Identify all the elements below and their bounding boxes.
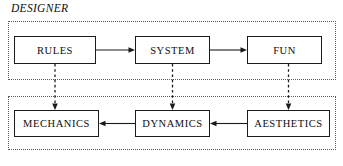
node-rules-label: RULES xyxy=(37,45,73,56)
node-system: SYSTEM xyxy=(135,36,210,64)
node-aesthetics: AESTHETICS xyxy=(247,110,330,137)
diagram-canvas: DESIGNER xyxy=(0,0,343,166)
node-fun: FUN xyxy=(247,36,322,64)
node-aesthetics-label: AESTHETICS xyxy=(254,118,323,129)
node-system-label: SYSTEM xyxy=(150,45,195,56)
designer-perspective-label: DESIGNER xyxy=(11,2,68,15)
node-fun-label: FUN xyxy=(273,45,296,56)
node-mechanics-label: MECHANICS xyxy=(23,118,90,129)
node-mechanics: MECHANICS xyxy=(14,110,99,137)
node-rules: RULES xyxy=(14,36,96,64)
node-dynamics: DYNAMICS xyxy=(135,110,210,137)
node-dynamics-label: DYNAMICS xyxy=(142,118,202,129)
